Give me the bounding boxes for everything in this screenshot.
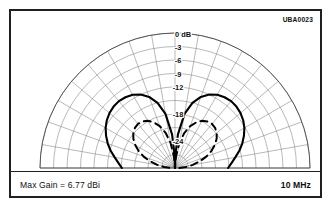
- figure-id-code: UBA0023: [283, 16, 313, 23]
- radial-tick-label: -24: [173, 137, 185, 146]
- radial-tick-label: -18: [173, 110, 184, 119]
- polar-grid: [40, 33, 310, 168]
- max-gain-label: Max Gain = 6.77 dBi: [20, 180, 100, 190]
- figure-panel: 0 dB0 dB-3-3-6-6-9-9-12-12-18-18-24-24 U…: [9, 9, 322, 198]
- radial-tick-label: -6: [175, 56, 182, 65]
- radial-tick-label: -12: [173, 83, 184, 92]
- radial-tick-label: -9: [175, 70, 182, 79]
- polar-radiation-pattern-chart: 0 dB0 dB-3-3-6-6-9-9-12-12-18-18-24-24: [11, 11, 320, 196]
- radial-tick-label: 0 dB: [175, 30, 191, 39]
- radial-tick-label: -3: [175, 43, 182, 52]
- frequency-label: 10 MHz: [281, 180, 311, 190]
